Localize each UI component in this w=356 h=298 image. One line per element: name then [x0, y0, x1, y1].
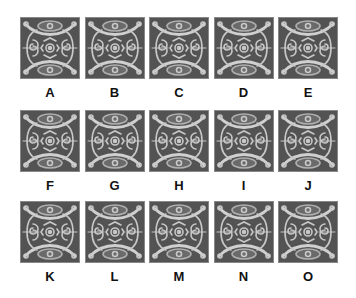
option-l[interactable]: L: [85, 201, 145, 294]
ornament-icon: [150, 18, 208, 78]
option-a[interactable]: A: [20, 17, 80, 110]
ornament-icon: [150, 111, 208, 171]
ornament-tile[interactable]: [20, 201, 80, 263]
ornament-icon: [279, 111, 337, 171]
option-m[interactable]: M: [149, 201, 209, 294]
ornament-icon: [86, 111, 144, 171]
option-e[interactable]: E: [278, 17, 338, 110]
options-grid: A: [20, 17, 338, 294]
option-label: L: [111, 270, 119, 284]
ornament-icon: [279, 18, 337, 78]
option-label: D: [239, 86, 248, 100]
option-b[interactable]: B: [85, 17, 145, 110]
option-label: J: [304, 179, 311, 193]
option-label: G: [109, 179, 119, 193]
ornament-tile[interactable]: [214, 110, 274, 172]
ornament-icon: [215, 202, 273, 262]
ornament-tile[interactable]: [214, 17, 274, 79]
option-n[interactable]: N: [214, 201, 274, 294]
ornament-tile[interactable]: [278, 17, 338, 79]
ornament-tile[interactable]: [214, 201, 274, 263]
option-c[interactable]: C: [149, 17, 209, 110]
option-o[interactable]: O: [278, 201, 338, 294]
ornament-icon: [21, 18, 79, 78]
ornament-icon: [215, 18, 273, 78]
option-label: N: [239, 270, 248, 284]
ornament-icon: [86, 18, 144, 78]
ornament-icon: [279, 202, 337, 262]
option-label: M: [174, 270, 185, 284]
ornament-icon: [86, 202, 144, 262]
option-label: B: [110, 86, 119, 100]
option-label: I: [242, 179, 246, 193]
ornament-tile[interactable]: [149, 201, 209, 263]
option-i[interactable]: I: [214, 110, 274, 203]
option-h[interactable]: H: [149, 110, 209, 203]
ornament-tile[interactable]: [278, 110, 338, 172]
ornament-icon: [21, 202, 79, 262]
ornament-tile[interactable]: [20, 110, 80, 172]
ornament-tile[interactable]: [85, 17, 145, 79]
ornament-tile[interactable]: [20, 17, 80, 79]
ornament-tile[interactable]: [85, 201, 145, 263]
option-label: O: [303, 270, 313, 284]
option-label: E: [304, 86, 313, 100]
option-label: K: [45, 270, 54, 284]
option-label: F: [46, 179, 54, 193]
option-g[interactable]: G: [85, 110, 145, 203]
ornament-tile[interactable]: [85, 110, 145, 172]
option-label: A: [45, 86, 54, 100]
ornament-icon: [21, 111, 79, 171]
option-j[interactable]: J: [278, 110, 338, 203]
ornament-icon: [150, 202, 208, 262]
option-label: C: [174, 86, 183, 100]
option-k[interactable]: K: [20, 201, 80, 294]
option-d[interactable]: D: [214, 17, 274, 110]
ornament-tile[interactable]: [149, 110, 209, 172]
ornament-icon: [215, 111, 273, 171]
ornament-tile[interactable]: [149, 17, 209, 79]
option-f[interactable]: F: [20, 110, 80, 203]
ornament-tile[interactable]: [278, 201, 338, 263]
option-label: H: [174, 179, 183, 193]
